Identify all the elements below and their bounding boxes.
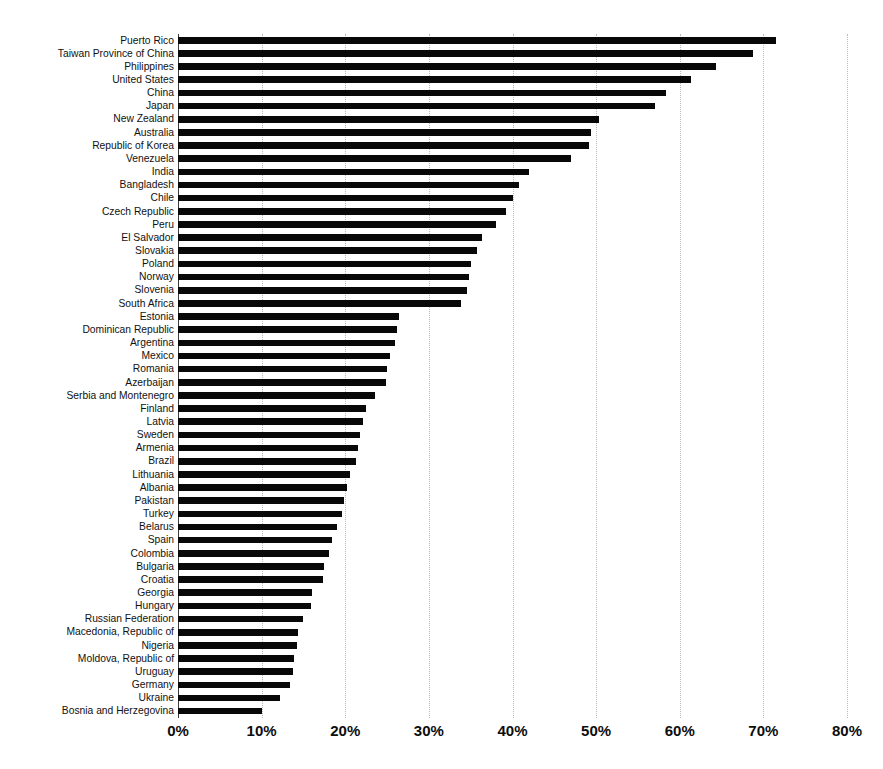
bar-row [178, 47, 847, 61]
category-label: Nigeria [0, 640, 174, 651]
bar-row [178, 258, 847, 272]
category-label: Mexico [0, 350, 174, 361]
category-axis-labels: Puerto RicoTaiwan Province of ChinaPhili… [0, 34, 174, 718]
category-label: Brazil [0, 455, 174, 466]
category-label: Pakistan [0, 495, 174, 506]
bar [178, 655, 294, 662]
bar [178, 326, 397, 333]
category-label: Germany [0, 679, 174, 690]
bar [178, 340, 395, 347]
bar [178, 90, 666, 97]
bar [178, 629, 298, 636]
category-label: Russian Federation [0, 613, 174, 624]
bar-row [178, 389, 847, 403]
bar-row [178, 652, 847, 666]
category-label: Macedonia, Republic of [0, 626, 174, 637]
bar [178, 155, 571, 162]
bar [178, 261, 471, 268]
bar-row [178, 271, 847, 285]
bar-row [178, 337, 847, 351]
category-label: Peru [0, 219, 174, 230]
bar-row [178, 494, 847, 508]
bar [178, 221, 496, 228]
bar [178, 392, 375, 399]
bar [178, 550, 329, 557]
category-label: Czech Republic [0, 206, 174, 217]
bar-row [178, 402, 847, 416]
x-tick-label: 70% [748, 722, 778, 739]
bar-row [178, 521, 847, 535]
category-label: Bosnia and Herzegovina [0, 705, 174, 716]
x-tick-label: 80% [832, 722, 862, 739]
x-tick-label: 50% [581, 722, 611, 739]
bar-row [178, 192, 847, 206]
category-label: South Africa [0, 298, 174, 309]
bar-row [178, 231, 847, 245]
bar [178, 103, 655, 110]
category-label: Romania [0, 363, 174, 374]
bar [178, 418, 363, 425]
category-label: Turkey [0, 508, 174, 519]
bar [178, 484, 347, 491]
bar [178, 563, 324, 570]
category-label: Latvia [0, 416, 174, 427]
bar [178, 116, 599, 123]
bar-row [178, 139, 847, 153]
bar-row [178, 534, 847, 548]
category-label: Poland [0, 258, 174, 269]
bar-row [178, 350, 847, 364]
category-label: Hungary [0, 600, 174, 611]
bar-row [178, 626, 847, 640]
bar [178, 37, 776, 44]
bar [178, 471, 350, 478]
bar-row [178, 508, 847, 522]
category-label: Azerbaijan [0, 377, 174, 388]
category-label: Republic of Korea [0, 140, 174, 151]
bar [178, 642, 297, 649]
bar [178, 208, 506, 215]
bar-row [178, 692, 847, 706]
category-label: Moldova, Republic of [0, 653, 174, 664]
bar [178, 63, 716, 70]
category-label: Armenia [0, 442, 174, 453]
bar-row [178, 429, 847, 443]
category-label: Albania [0, 482, 174, 493]
bar-row [178, 481, 847, 495]
bar [178, 353, 390, 360]
bar [178, 300, 461, 307]
category-label: Croatia [0, 574, 174, 585]
category-label: Bulgaria [0, 561, 174, 572]
bar-row [178, 166, 847, 180]
bar-row [178, 679, 847, 693]
bar [178, 76, 691, 83]
bar [178, 445, 358, 452]
bar [178, 708, 262, 715]
bar-row [178, 415, 847, 429]
bar [178, 129, 591, 136]
bar-row [178, 547, 847, 561]
bar [178, 616, 303, 623]
category-label: Norway [0, 271, 174, 282]
bar-row [178, 600, 847, 614]
bar-row [178, 310, 847, 324]
bar-row [178, 126, 847, 140]
bar-row [178, 87, 847, 101]
gridline-80 [847, 34, 849, 718]
bar-row [178, 560, 847, 574]
bar [178, 695, 280, 702]
bar [178, 524, 337, 531]
bar-row [178, 586, 847, 600]
category-label: Dominican Republic [0, 324, 174, 335]
bar-row [178, 152, 847, 166]
category-label: El Salvador [0, 232, 174, 243]
bar-row [178, 665, 847, 679]
bar [178, 182, 519, 189]
bar [178, 313, 399, 320]
plot-area [178, 34, 847, 718]
bar [178, 195, 513, 202]
category-label: Philippines [0, 61, 174, 72]
category-label: Japan [0, 100, 174, 111]
category-label: India [0, 166, 174, 177]
bar [178, 169, 529, 176]
bar [178, 537, 332, 544]
